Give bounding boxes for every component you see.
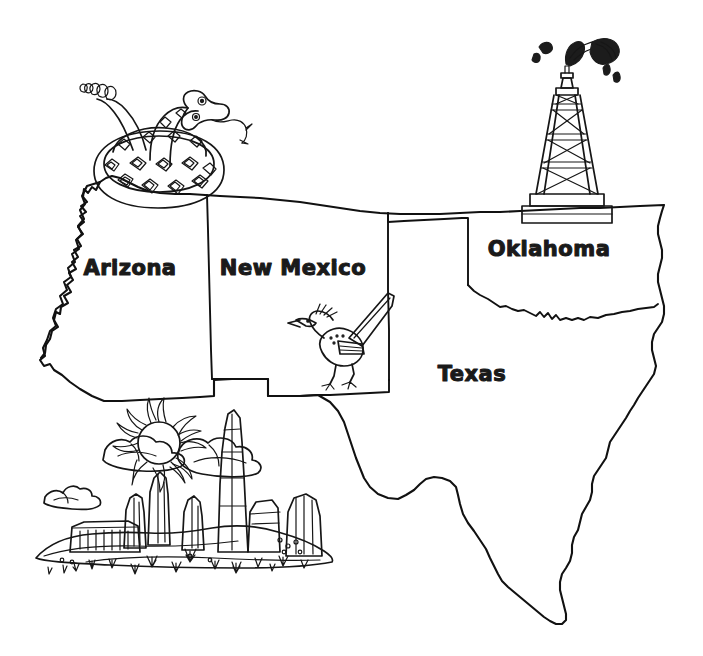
- southwest-states-map: Arizona New Mexico Oklahoma Texas: [0, 0, 703, 656]
- oil-droplet-3: [603, 64, 610, 75]
- oil-droplet-4: [613, 72, 620, 82]
- snake-pupil-lower: [195, 116, 198, 119]
- oil-gusher-blob: [590, 39, 619, 65]
- page-background: [0, 0, 703, 656]
- state-label-oklahoma: Oklahoma: [488, 237, 611, 261]
- snake-pupil-upper: [200, 99, 203, 102]
- state-label-new-mexico: New Mexico: [220, 256, 366, 280]
- state-label-arizona: Arizona: [83, 256, 176, 280]
- state-label-texas: Texas: [438, 362, 507, 386]
- coloring-page-canvas: Arizona New Mexico Oklahoma Texas: [0, 0, 703, 656]
- roadrunner-eye: [307, 320, 310, 323]
- border-newmexico-texas: [388, 213, 389, 380]
- oil-droplet-2: [532, 53, 540, 62]
